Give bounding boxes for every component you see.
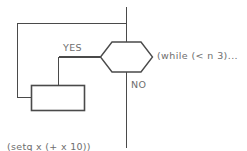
- process-rectangle: [32, 86, 85, 111]
- while-condition-label: (while (< n 3)...: [157, 50, 238, 61]
- no-branch-label: NO: [131, 79, 146, 90]
- code-line-1: (setq x (+ x 10)): [7, 140, 91, 151]
- decision-hexagon: [101, 42, 153, 72]
- process-code-caption: (setq x (+ x 10)) (setq n (1+ n)): [7, 114, 91, 151]
- yes-branch-label: YES: [63, 42, 82, 53]
- flowchart-canvas: YES NO (while (< n 3)... (setq x (+ x 10…: [0, 0, 247, 151]
